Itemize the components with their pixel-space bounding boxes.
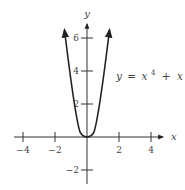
y-tick-label: 6 bbox=[73, 33, 79, 43]
equation-label: y = x 4 + x 2 bbox=[115, 65, 185, 82]
y-axis-label: y bbox=[83, 8, 90, 19]
x-tick-label: −2 bbox=[48, 145, 61, 155]
y-tick-label: 4 bbox=[73, 66, 79, 76]
x-tick-label: −4 bbox=[16, 145, 30, 155]
y-tick-label: −2 bbox=[66, 165, 79, 175]
x-tick-label: 2 bbox=[116, 145, 122, 155]
x-tick-label: 4 bbox=[148, 145, 154, 155]
x-axis-label: x bbox=[171, 131, 177, 142]
function-graph: −4 −2 2 4 6 4 2 −2 x y y = x 4 + x 2 bbox=[0, 0, 185, 190]
